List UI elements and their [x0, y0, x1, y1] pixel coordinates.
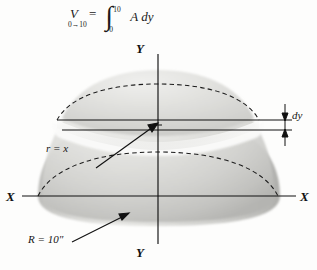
dy-dimension [282, 104, 288, 146]
slice-radius-label: r = x [46, 143, 68, 154]
diagram-canvas [0, 0, 317, 270]
x-axis-label-left: X [6, 190, 15, 203]
y-axis-label-top: Y [136, 42, 144, 55]
x-axis-label-right: X [300, 190, 309, 203]
hemisphere-solid [38, 70, 280, 226]
y-axis-label-bottom: Y [136, 246, 144, 259]
slice-thickness-label: dy [292, 110, 302, 121]
sphere-radius-label: R = 10″ [28, 234, 63, 245]
hemisphere-volume-figure: V 0→10 = ∫ 10 0 A dy [0, 0, 317, 270]
